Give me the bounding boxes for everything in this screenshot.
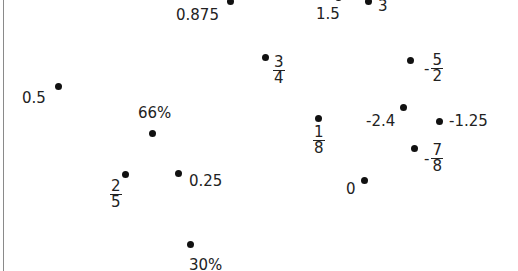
point-dot[interactable] <box>436 118 443 125</box>
point-dot[interactable] <box>149 130 156 137</box>
point-dot[interactable] <box>262 54 269 61</box>
point-dot[interactable] <box>315 115 322 122</box>
point-label: 1.5 <box>316 6 340 23</box>
point-label: 30% <box>189 257 222 271</box>
point-label-fraction: - 52 <box>424 53 443 84</box>
left-border-line <box>3 0 4 271</box>
point-dot[interactable] <box>122 171 129 178</box>
point-label: 66% <box>138 105 171 122</box>
point-dot[interactable] <box>407 57 414 64</box>
point-label-fraction: 25 <box>108 179 122 210</box>
point-label: 3 <box>378 0 388 15</box>
point-dot[interactable] <box>175 170 182 177</box>
point-label: 0.25 <box>189 173 222 190</box>
fraction-sign: - <box>424 60 429 78</box>
point-dot[interactable] <box>411 145 418 152</box>
fraction-sign: - <box>424 150 429 168</box>
point-label: 0.875 <box>176 7 219 24</box>
point-label: -2.4 <box>366 113 395 130</box>
point-dot[interactable] <box>335 0 342 1</box>
point-dot[interactable] <box>187 241 194 248</box>
point-label: 0 <box>346 181 356 198</box>
point-dot[interactable] <box>400 104 407 111</box>
fraction-denominator: 8 <box>431 159 443 174</box>
point-label: -1.25 <box>449 113 488 130</box>
point-dot[interactable] <box>361 177 368 184</box>
point-label-fraction: 34 <box>271 55 285 86</box>
fraction-denominator: 8 <box>313 141 325 156</box>
point-dot[interactable] <box>365 0 372 5</box>
point-label-fraction: - 78 <box>424 143 443 174</box>
point-dot[interactable] <box>227 0 234 5</box>
fraction-denominator: 5 <box>110 195 122 210</box>
fraction-denominator: 4 <box>273 71 285 86</box>
fraction-denominator: 2 <box>431 69 443 84</box>
point-label-fraction: 18 <box>311 125 325 156</box>
point-label: 0.5 <box>22 90 46 107</box>
point-dot[interactable] <box>55 83 62 90</box>
